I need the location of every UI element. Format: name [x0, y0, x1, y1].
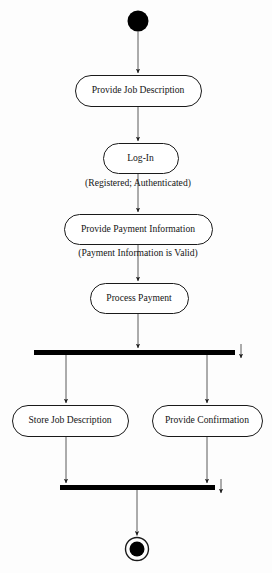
bar-fork-bar[interactable]	[34, 350, 235, 355]
initial-node[interactable]	[128, 11, 149, 32]
activity-node-store-job-description[interactable]	[13, 406, 129, 437]
activity-node-provide-job-description[interactable]	[76, 76, 202, 107]
bar-join-bar[interactable]	[60, 485, 215, 490]
activity-node-process-payment[interactable]	[91, 284, 189, 314]
final-node[interactable]	[130, 542, 145, 557]
activity-node-provide-payment-information[interactable]	[65, 215, 213, 245]
activity-node-log-in[interactable]	[104, 144, 179, 174]
activity-node-provide-confirmation[interactable]	[153, 406, 263, 437]
diagram-graphics	[0, 0, 272, 573]
activity-diagram-canvas: Provide Job Description Log-In Provide P…	[0, 0, 272, 573]
